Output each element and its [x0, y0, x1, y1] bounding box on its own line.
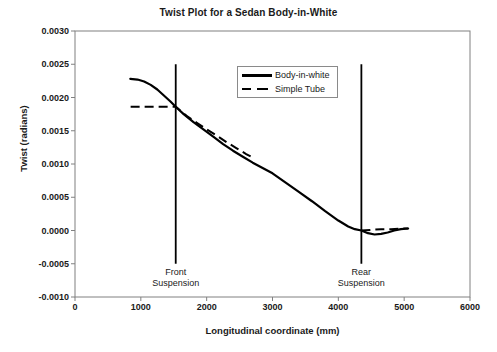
x-tick-label: 4000 — [308, 302, 368, 312]
x-tick-label: 0 — [45, 302, 105, 312]
rear-suspension-label-line2: Suspension — [301, 278, 421, 290]
y-tick-label: 0.0015 — [9, 126, 69, 136]
rear-suspension-label: RearSuspension — [301, 267, 421, 290]
legend-key-solid-line — [242, 70, 272, 80]
legend-label-simple-tube: Simple Tube — [275, 84, 325, 94]
y-axis-tick-labels: 0.00300.00250.00200.00150.00100.00050.00… — [7, 0, 69, 352]
y-tick-label: 0.0010 — [9, 159, 69, 169]
legend-key-dashed-line — [242, 84, 272, 94]
y-tick-label: -0.0010 — [9, 292, 69, 302]
twist-plot-figure: Twist Plot for a Sedan Body-in-White Twi… — [0, 0, 497, 352]
y-tick-label: -0.0005 — [9, 259, 69, 269]
plot-canvas — [0, 0, 497, 352]
legend-label-body-in-white: Body-in-white — [275, 70, 330, 80]
legend-item-body-in-white: Body-in-white — [242, 68, 330, 82]
rear-suspension-label-line1: Rear — [301, 267, 421, 279]
x-tick-label: 6000 — [440, 302, 497, 312]
x-tick-label: 2000 — [177, 302, 237, 312]
chart-title: Twist Plot for a Sedan Body-in-White — [0, 7, 497, 18]
y-tick-label: 0.0000 — [9, 226, 69, 236]
x-tick-label: 5000 — [374, 302, 434, 312]
front-suspension-label: FrontSuspension — [116, 267, 236, 290]
x-axis-label: Longitudinal coordinate (mm) — [75, 325, 470, 336]
legend: Body-in-white Simple Tube — [237, 66, 338, 98]
y-tick-label: 0.0005 — [9, 192, 69, 202]
y-tick-label: 0.0025 — [9, 59, 69, 69]
x-tick-label: 1000 — [111, 302, 171, 312]
y-tick-label: 0.0030 — [9, 26, 69, 36]
front-suspension-label-line1: Front — [116, 267, 236, 279]
front-suspension-label-line2: Suspension — [116, 278, 236, 290]
data-series — [130, 79, 408, 235]
x-tick-label: 3000 — [243, 302, 303, 312]
y-tick-label: 0.0020 — [9, 93, 69, 103]
legend-item-simple-tube: Simple Tube — [242, 82, 325, 96]
